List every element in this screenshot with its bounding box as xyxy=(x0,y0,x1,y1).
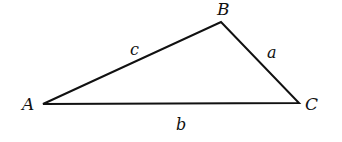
vertex-label-b: B xyxy=(216,0,230,19)
vertex-label-c: C xyxy=(305,94,318,114)
side-label-a: a xyxy=(267,43,277,62)
triangle-abc xyxy=(43,22,299,104)
side-label-c: c xyxy=(130,40,139,59)
triangle-diagram: A B C c a b xyxy=(0,0,342,142)
side-label-b: b xyxy=(176,115,186,134)
vertex-label-a: A xyxy=(20,94,34,114)
